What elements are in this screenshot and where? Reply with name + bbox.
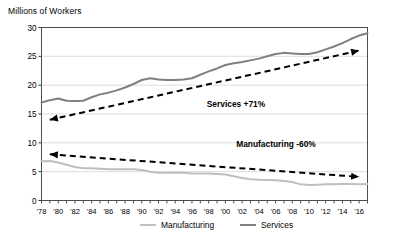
gridlines	[42, 28, 368, 172]
series-line-services	[42, 33, 368, 102]
chart-container: Millions of Workers 051015202530 '78'80'…	[0, 0, 395, 241]
annotation-group: Services +71%Manufacturing -60%	[50, 49, 359, 180]
trend-arrow-left	[50, 151, 58, 158]
y-tick-label: 25	[27, 52, 37, 61]
x-tick-label: '00	[220, 207, 230, 216]
x-tick-label: '86	[103, 207, 113, 216]
x-tick-label: '98	[204, 207, 214, 216]
annotation-label: Services +71%	[207, 99, 266, 109]
x-tick-label: '02	[237, 207, 247, 216]
x-tick-label: '80	[53, 207, 63, 216]
x-tick-label: '16	[354, 207, 364, 216]
x-tick-label: '08	[287, 207, 297, 216]
x-axis-ticks: '78'80'82'84'86'88'90'92'94'96'98'00'02'…	[37, 201, 368, 216]
legend-label-services: Services	[261, 220, 293, 230]
y-tick-label: 0	[32, 197, 37, 206]
x-tick-label: '04	[254, 207, 264, 216]
x-tick-label: '84	[87, 207, 97, 216]
y-tick-label: 5	[32, 168, 37, 177]
legend-label-manufacturing: Manufacturing	[161, 220, 214, 230]
x-tick-label: '14	[337, 207, 347, 216]
x-tick-label: '12	[321, 207, 331, 216]
trend-arrow-right	[351, 173, 359, 180]
x-tick-label: '96	[187, 207, 197, 216]
y-tick-label: 20	[27, 81, 37, 90]
x-tick-label: '78	[37, 207, 47, 216]
y-axis-ticks: 051015202530	[27, 24, 41, 206]
chart-legend: ManufacturingServices	[140, 220, 293, 230]
x-tick-label: '94	[170, 207, 180, 216]
annotation-label: Manufacturing -60%	[236, 139, 316, 149]
data-series-group	[42, 33, 368, 185]
y-tick-label: 30	[27, 24, 37, 33]
x-tick-label: '82	[70, 207, 80, 216]
series-line-manufacturing	[42, 161, 368, 185]
line-chart-svg: 051015202530 '78'80'82'84'86'88'90'92'94…	[0, 0, 395, 241]
x-tick-label: '10	[304, 207, 314, 216]
x-tick-label: '92	[154, 207, 164, 216]
y-tick-label: 10	[27, 139, 37, 148]
x-tick-label: '90	[137, 207, 147, 216]
x-tick-label: '88	[120, 207, 130, 216]
y-tick-label: 15	[27, 110, 37, 119]
x-tick-label: '06	[271, 207, 281, 216]
